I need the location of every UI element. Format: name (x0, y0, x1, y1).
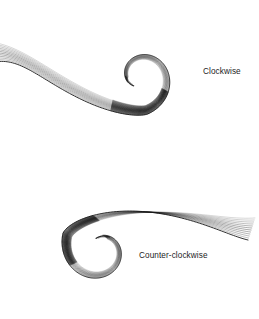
spiral-stroke (0, 54, 167, 111)
clockwise-label: Clockwise (203, 67, 241, 77)
spiral-stroke (0, 53, 167, 112)
clockwise-spiral (0, 41, 170, 115)
spiral-stroke (0, 41, 163, 106)
spiral-direction-diagram: Clockwise Counter-clockwise (0, 0, 259, 319)
counter-clockwise-label: Counter-clockwise (139, 251, 208, 261)
spiral-stroke (0, 51, 166, 111)
spiral-illustration-canvas (0, 0, 259, 319)
spiral-stroke (0, 56, 168, 113)
counter-clockwise-spiral (62, 211, 255, 278)
